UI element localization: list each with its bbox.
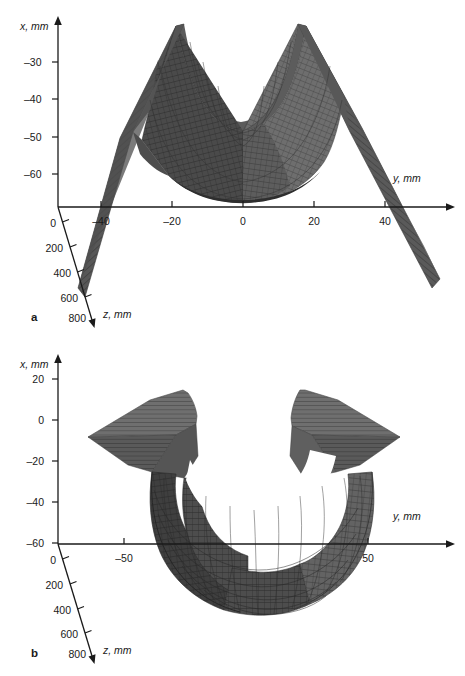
y-axis-title-b: y, mm [392,510,421,522]
z-tick-a-2: 400 [53,267,71,279]
x-axis-arrow-b [54,354,62,363]
x-tick-b-2: –20 [26,455,44,467]
surface-wing-left-b [88,390,198,478]
x-tick-b-1: 0 [38,414,44,426]
y-tick-a-1: –20 [163,215,181,227]
z-tick-a-0: 0 [50,217,56,229]
z-tick-a-4: 800 [68,312,86,324]
panel-b: x, mm y, mm z, mm 20 0 –20 –40 –60 –50 5… [0,338,465,676]
y-tick-a-4: 40 [379,215,391,227]
z-tick-b-3: 600 [60,628,78,640]
panel-letter-a: a [31,311,38,323]
x-axis-title-b: x, mm [19,358,49,370]
figure-container: x, mm y, mm z, mm –30 –40 –50 –60 –40 –2… [0,0,465,676]
panel-letter-b: b [31,647,38,659]
y-tick-a-3: 20 [308,215,320,227]
x-tick-b-3: –40 [26,496,44,508]
z-axis-arrow-b [89,654,96,664]
z-tick-b-2: 400 [53,604,71,616]
z-tick-b-4: 800 [68,648,86,660]
panel-a: x, mm y, mm z, mm –30 –40 –50 –60 –40 –2… [0,0,465,338]
z-tick-a-3: 600 [60,292,78,304]
z-tick-b-0: 0 [50,554,56,566]
y-tick-b-1: 50 [362,552,374,564]
x-axis-title-a: x, mm [19,20,49,32]
x-axis-arrow-a [54,16,62,25]
y-tick-b-0: –50 [115,552,133,564]
y-axis-arrow-a [446,203,455,211]
x-tick-a-3: –60 [24,168,42,180]
y-tick-a-2: 0 [240,215,246,227]
x-tick-b-0: 20 [32,373,44,385]
z-axis-title-a: z, mm [102,308,132,320]
x-tick-a-2: –50 [24,131,42,143]
y-axis-title-a: y, mm [392,172,421,184]
x-tick-a-0: –30 [24,56,42,68]
y-tick-a-0: –40 [92,215,110,227]
z-axis-title-b: z, mm [102,644,132,656]
z-tick-a-1: 200 [45,242,63,254]
x-tick-a-1: –40 [24,93,42,105]
x-tick-b-4: –60 [26,537,44,549]
z-axis-arrow-a [89,318,96,328]
y-axis-arrow-b [446,540,455,548]
z-tick-b-1: 200 [45,579,63,591]
